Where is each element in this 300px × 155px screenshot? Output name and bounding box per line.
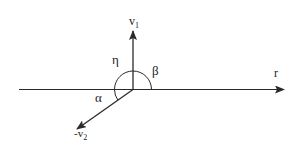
r-label: r <box>274 66 278 80</box>
alpha-label: α <box>95 90 102 105</box>
neg-v2-vector-arrow <box>77 90 133 130</box>
v1-label: v1 <box>129 14 139 30</box>
beta-label: β <box>152 63 159 78</box>
eta-angle-arc <box>115 71 134 90</box>
neg-v2-label: -v2 <box>74 127 87 142</box>
vector-diagram: v1 η β r α -v2 <box>0 0 300 155</box>
alpha-angle-arc <box>115 90 118 101</box>
eta-label: η <box>112 52 119 67</box>
beta-angle-arc <box>133 71 152 90</box>
